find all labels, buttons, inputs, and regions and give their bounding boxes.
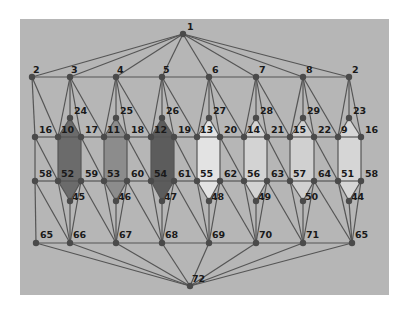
node-label: 1 xyxy=(187,21,194,32)
graph-node xyxy=(67,115,73,121)
node-label: 5 xyxy=(163,64,170,75)
node-label: 46 xyxy=(118,191,132,202)
node-label: 58 xyxy=(39,168,53,179)
graph-node xyxy=(171,134,177,140)
graph-node xyxy=(300,240,306,246)
node-label: 3 xyxy=(71,64,78,75)
node-label: 59 xyxy=(85,168,98,179)
graph-node xyxy=(349,240,355,246)
node-label: 12 xyxy=(154,124,167,135)
graph-node xyxy=(113,240,119,246)
graph-node xyxy=(311,178,317,184)
node-label: 51 xyxy=(341,168,354,179)
node-label: 52 xyxy=(61,168,74,179)
node-label: 2 xyxy=(33,64,40,75)
node-label: 45 xyxy=(72,191,85,202)
node-label: 71 xyxy=(306,229,319,240)
node-label: 61 xyxy=(178,168,191,179)
node-label: 67 xyxy=(119,229,132,240)
node-label: 24 xyxy=(74,105,88,116)
graph-node xyxy=(67,240,73,246)
node-label: 64 xyxy=(318,168,332,179)
node-label: 23 xyxy=(353,105,366,116)
graph-node xyxy=(264,134,270,140)
node-label: 65 xyxy=(355,229,368,240)
graph-node xyxy=(180,31,186,37)
node-label: 6 xyxy=(212,64,219,75)
graph-node xyxy=(206,240,212,246)
graph-node xyxy=(78,178,84,184)
node-label: 44 xyxy=(351,191,365,202)
node-label: 11 xyxy=(107,124,120,135)
graph-node xyxy=(358,134,364,140)
node-label: 20 xyxy=(224,124,238,135)
node-label: 25 xyxy=(120,105,133,116)
node-label: 56 xyxy=(247,168,261,179)
graph-node xyxy=(32,178,38,184)
node-label: 55 xyxy=(200,168,213,179)
graph-node xyxy=(217,178,223,184)
node-label: 70 xyxy=(259,229,273,240)
node-label: 22 xyxy=(318,124,331,135)
node-label: 50 xyxy=(305,191,319,202)
node-label: 65 xyxy=(40,229,53,240)
node-label: 13 xyxy=(200,124,213,135)
graph-node xyxy=(253,240,259,246)
node-label: 69 xyxy=(212,229,225,240)
node-label: 19 xyxy=(178,124,191,135)
graph-node xyxy=(159,115,165,121)
node-label: 62 xyxy=(224,168,237,179)
node-label: 15 xyxy=(293,124,306,135)
node-label: 66 xyxy=(73,229,87,240)
graph-node xyxy=(264,178,270,184)
graph-node xyxy=(346,115,352,121)
node-label: 2 xyxy=(352,64,359,75)
node-label: 16 xyxy=(365,124,379,135)
node-label: 14 xyxy=(247,124,261,135)
node-label: 68 xyxy=(165,229,179,240)
node-label: 47 xyxy=(164,191,177,202)
node-label: 58 xyxy=(365,168,379,179)
graph-node xyxy=(159,240,165,246)
graph-node xyxy=(33,240,39,246)
node-label: 17 xyxy=(85,124,98,135)
graph-node xyxy=(311,134,317,140)
graph-node xyxy=(217,134,223,140)
node-label: 7 xyxy=(259,64,266,75)
graph-node xyxy=(171,178,177,184)
graph-node xyxy=(124,178,130,184)
node-label: 4 xyxy=(117,64,124,75)
graph-node xyxy=(78,134,84,140)
graph-node xyxy=(32,134,38,140)
node-label: 16 xyxy=(39,124,53,135)
node-label: 8 xyxy=(306,64,313,75)
node-label: 49 xyxy=(258,191,271,202)
node-label: 63 xyxy=(271,168,284,179)
node-label: 60 xyxy=(131,168,145,179)
graph-node xyxy=(253,115,259,121)
node-label: 53 xyxy=(107,168,120,179)
node-label: 10 xyxy=(61,124,75,135)
graph-node xyxy=(206,115,212,121)
graph-node xyxy=(124,134,130,140)
graph-node xyxy=(358,178,364,184)
graph-node xyxy=(300,115,306,121)
node-label: 26 xyxy=(166,105,180,116)
node-label: 57 xyxy=(293,168,306,179)
node-label: 18 xyxy=(131,124,145,135)
node-label: 21 xyxy=(271,124,284,135)
graph-diagram: 1234567822425262728292316101711181219132… xyxy=(0,0,407,310)
node-label: 27 xyxy=(213,105,226,116)
node-label: 28 xyxy=(260,105,274,116)
node-label: 48 xyxy=(211,191,225,202)
node-label: 54 xyxy=(154,168,168,179)
graph-node xyxy=(113,115,119,121)
node-label: 29 xyxy=(307,105,320,116)
node-label: 9 xyxy=(341,124,348,135)
node-label: 72 xyxy=(192,273,205,284)
